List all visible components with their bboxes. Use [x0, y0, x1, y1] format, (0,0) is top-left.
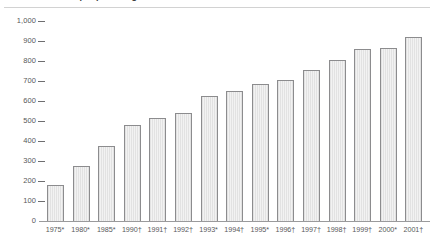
bar-group	[301, 0, 325, 221]
bar-group	[352, 0, 376, 221]
bar-group	[173, 0, 197, 221]
bar	[98, 146, 115, 221]
bar-group	[122, 0, 146, 221]
bar-group	[199, 0, 223, 221]
bar-group	[378, 0, 402, 221]
y-axis-tick	[38, 201, 45, 202]
chart-figure: Number of people living with HIV/AIDS 1,…	[0, 0, 434, 241]
bar	[252, 84, 269, 221]
bar	[149, 118, 166, 221]
y-axis-tick	[38, 181, 45, 182]
y-axis-tick	[38, 161, 45, 162]
bar-group	[250, 0, 274, 221]
bar	[329, 60, 346, 221]
y-axis-label: 500	[0, 117, 36, 125]
y-axis-label: 0	[0, 217, 36, 225]
bar-group	[147, 0, 171, 221]
y-axis-label: 400	[0, 137, 36, 145]
y-axis-label: 800	[0, 57, 36, 65]
y-axis-tick	[38, 61, 45, 62]
bar	[226, 91, 243, 221]
bar	[405, 37, 422, 221]
y-axis-label: 900	[0, 37, 36, 45]
bar	[201, 96, 218, 221]
bar-group	[71, 0, 95, 221]
y-axis-tick	[38, 21, 45, 22]
plot-area: 1,00090080070060050040030020010001975*19…	[0, 0, 434, 241]
bar	[354, 49, 371, 221]
bar-group	[96, 0, 120, 221]
y-axis-label: 600	[0, 97, 36, 105]
y-axis-label: 700	[0, 77, 36, 85]
bar-group	[224, 0, 248, 221]
bar	[175, 113, 192, 221]
y-axis-tick	[38, 81, 45, 82]
bar-group	[45, 0, 69, 221]
y-axis-tick	[38, 101, 45, 102]
bar-group	[403, 0, 427, 221]
bar-series	[45, 0, 429, 221]
x-axis-baseline	[39, 221, 430, 222]
bar	[380, 48, 397, 221]
bar	[73, 166, 90, 221]
y-axis-tick	[38, 121, 45, 122]
y-axis-label: 200	[0, 177, 36, 185]
y-axis-label: 300	[0, 157, 36, 165]
x-axis-label: 2001†	[393, 225, 433, 234]
bar	[47, 185, 64, 221]
y-axis-label: 1,000	[0, 17, 36, 25]
bar	[124, 125, 141, 221]
y-axis-tick	[38, 141, 45, 142]
bar	[303, 70, 320, 221]
y-axis-label: 100	[0, 197, 36, 205]
y-axis-tick	[38, 41, 45, 42]
bar-group	[327, 0, 351, 221]
bar	[277, 80, 294, 221]
bar-group	[275, 0, 299, 221]
